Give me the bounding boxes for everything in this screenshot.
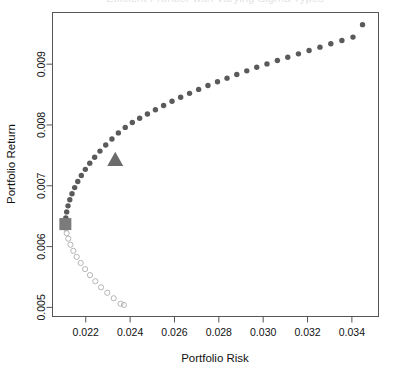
data-point-efficient: [65, 203, 70, 208]
data-point-efficient: [69, 191, 74, 196]
data-point-efficient: [275, 58, 280, 63]
data-point-efficient: [145, 111, 150, 116]
data-point-efficient: [306, 48, 311, 53]
efficient-frontier-plot: 0.0220.0240.0260.0280.0300.0320.034 0.00…: [0, 0, 394, 378]
x-tick-label: 0.022: [73, 326, 99, 338]
plot-frame: [53, 13, 379, 317]
chart-container: 0.0220.0240.0260.0280.0300.0320.034 0.00…: [0, 0, 394, 378]
data-point-inefficient: [78, 260, 83, 265]
x-tick-label: 0.034: [339, 326, 365, 338]
data-point-efficient: [285, 54, 290, 59]
y-tick-label: 0.008: [35, 112, 47, 138]
data-point-efficient: [187, 91, 192, 96]
data-point-efficient: [79, 173, 84, 178]
data-point-efficient: [153, 107, 158, 112]
data-point-inefficient: [71, 248, 76, 253]
data-point-efficient: [161, 103, 166, 108]
data-point-efficient: [215, 79, 220, 84]
data-point-efficient: [264, 61, 269, 66]
data-point-efficient: [137, 116, 142, 121]
x-tick-label: 0.028: [206, 326, 232, 338]
data-point-inefficient: [93, 279, 98, 284]
data-point-efficient: [130, 120, 135, 125]
data-point-inefficient: [83, 266, 88, 271]
y-tick-label: 0.009: [35, 51, 47, 77]
data-point-inefficient: [64, 231, 69, 236]
data-point-inefficient: [87, 273, 92, 278]
data-point-inefficient: [118, 301, 123, 306]
x-tick-label: 0.024: [117, 326, 143, 338]
data-point-efficient: [350, 34, 355, 39]
data-point-efficient: [178, 95, 183, 100]
data-point-efficient: [97, 148, 102, 153]
data-point-efficient: [360, 22, 365, 27]
data-point-inefficient: [98, 285, 103, 290]
data-point-efficient: [75, 179, 80, 184]
efficient-frontier-series: [63, 22, 366, 227]
data-point-inefficient: [66, 236, 71, 241]
data-point-inefficient: [111, 296, 116, 301]
data-point-efficient: [339, 38, 344, 43]
x-axis-title: Portfolio Risk: [181, 352, 249, 364]
y-axis-tick-labels: 0.0050.0060.0070.0080.009: [35, 51, 47, 321]
data-point-efficient: [116, 130, 121, 135]
x-axis-tick-labels: 0.0220.0240.0260.0280.0300.0320.034: [73, 326, 366, 338]
data-point-efficient: [328, 41, 333, 46]
data-point-efficient: [296, 51, 301, 56]
min-variance-square-marker: [59, 218, 71, 230]
data-point-efficient: [103, 142, 108, 147]
data-point-inefficient: [121, 302, 126, 307]
data-point-efficient: [254, 65, 259, 70]
inefficient-frontier-series: [63, 226, 126, 308]
y-tick-label: 0.007: [35, 172, 47, 198]
data-point-efficient: [123, 125, 128, 130]
y-tick-label: 0.006: [35, 233, 47, 259]
data-point-efficient: [169, 99, 174, 104]
data-point-efficient: [109, 136, 114, 141]
data-point-efficient: [234, 72, 239, 77]
data-point-efficient: [224, 75, 229, 80]
tangency-triangle-marker: [107, 152, 123, 166]
x-tick-label: 0.026: [161, 326, 187, 338]
x-tick-label: 0.032: [294, 326, 320, 338]
data-point-efficient: [87, 161, 92, 166]
data-point-inefficient: [74, 254, 79, 259]
data-point-efficient: [92, 155, 97, 160]
data-point-efficient: [196, 87, 201, 92]
x-tick-label: 0.030: [250, 326, 276, 338]
data-point-efficient: [67, 197, 72, 202]
chart-title: Efficient Frontier with Varying Sigma Ty…: [106, 0, 324, 4]
data-point-inefficient: [105, 290, 110, 295]
y-axis-title: Portfolio Return: [5, 124, 17, 204]
data-point-efficient: [72, 185, 77, 190]
data-point-efficient: [244, 68, 249, 73]
data-point-efficient: [64, 209, 69, 214]
data-point-efficient: [205, 83, 210, 88]
x-axis-ticks: [86, 317, 352, 323]
y-tick-label: 0.005: [35, 294, 47, 320]
y-axis-ticks: [47, 64, 53, 307]
data-point-inefficient: [68, 242, 73, 247]
data-point-efficient: [83, 167, 88, 172]
data-point-efficient: [317, 44, 322, 49]
